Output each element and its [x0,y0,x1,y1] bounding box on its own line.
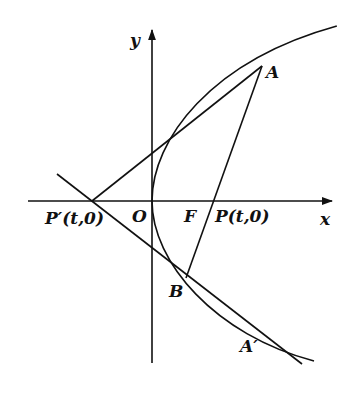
tangent-line-lower [57,174,302,364]
tangent-line-upper [92,66,262,201]
x-axis-label: x [319,209,331,229]
y-axis-label: y [129,30,141,50]
chord-AB [186,66,262,278]
point-F-label: F [183,206,198,226]
origin-label: O [132,206,147,226]
point-A-prime-label: A′ [238,336,258,356]
parabola-diagram: y x O A F P(t,0) P′(t,0) B A′ [0,0,354,394]
point-A-label: A [264,62,279,82]
point-P-prime-label: P′(t,0) [44,208,104,228]
parabola [152,26,337,361]
point-P-label: P(t,0) [214,206,269,226]
point-B-label: B [168,281,183,301]
